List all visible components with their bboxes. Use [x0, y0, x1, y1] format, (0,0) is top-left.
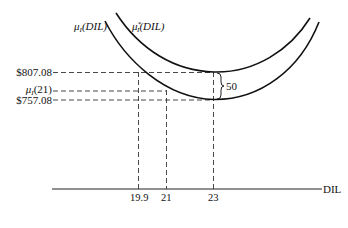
gap-brace	[217, 73, 224, 99]
x-axis-label: DIL	[323, 184, 341, 195]
y-label-757: $757.08	[16, 95, 52, 106]
gap-label: 50	[226, 81, 237, 92]
label-mu-star-arg: (DIL)	[139, 20, 164, 32]
x-tick-23: 23	[208, 193, 219, 204]
cost-curve-diagram: μI(DIL) μ*I(DIL) $807.08 μI(21) $757.08 …	[0, 0, 348, 228]
y-label-807: $807.08	[16, 67, 52, 78]
x-tick-19-9: 19.9	[130, 193, 148, 204]
diagram-canvas	[0, 0, 348, 228]
label-mu-star-I-curve: μ*I(DIL)	[132, 21, 164, 34]
x-tick-21: 21	[161, 193, 172, 204]
label-mu-I-curve: μI(DIL)	[74, 21, 107, 34]
label-mu-I-arg: (DIL)	[82, 20, 107, 32]
